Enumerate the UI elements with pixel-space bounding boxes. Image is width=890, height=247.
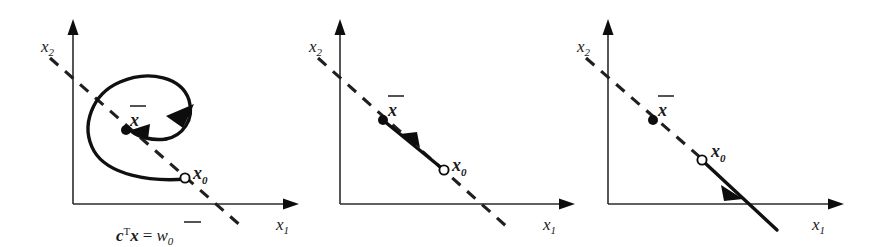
- x0-label: x0: [451, 155, 467, 178]
- straight-inward-panel: x2 x1 x x0: [308, 19, 575, 236]
- inward-segment-arrowhead: [400, 132, 420, 148]
- xbar-point: [378, 115, 388, 125]
- xbar-label: x: [387, 96, 404, 120]
- spiral-convergence-panel: x2 x1 x x0 cTx=w0: [40, 19, 299, 247]
- outward-ray: [705, 163, 777, 230]
- y-axis-label: x2: [40, 37, 55, 58]
- hyperplane-dashed-line: [586, 58, 701, 158]
- x0-point: [697, 155, 706, 164]
- x0-label: x0: [710, 141, 726, 164]
- x-axis-arrowhead: [283, 199, 299, 210]
- xbar-label-text: x: [129, 110, 139, 130]
- straight-outward-panel: x2 x1 x x0: [576, 19, 844, 236]
- x0-label: x0: [192, 163, 208, 186]
- y-axis-arrowhead: [68, 19, 79, 35]
- figure-canvas: x2 x1 x x0 cTx=w0 x2 x1: [0, 0, 890, 247]
- xbar-label-text: x: [387, 100, 397, 120]
- x0-point: [180, 173, 189, 182]
- xbar-label: x: [657, 96, 674, 120]
- hyperplane-equation-label: cTx=w0: [116, 225, 174, 247]
- y-axis-label: x2: [308, 37, 323, 58]
- xbar-point: [648, 115, 658, 125]
- x-axis-label: x1: [275, 215, 289, 236]
- inward-segment: [384, 121, 444, 170]
- xbar-label-text: x: [657, 100, 667, 120]
- x-axis-label: x1: [811, 215, 825, 236]
- y-axis-label: x2: [576, 37, 591, 58]
- hyperplane-dashed-line: [50, 58, 241, 226]
- x-axis-label: x1: [542, 215, 556, 236]
- x-axis-arrowhead: [559, 199, 575, 210]
- y-axis-arrowhead: [603, 19, 614, 35]
- y-axis-arrowhead: [335, 19, 346, 35]
- x-axis-arrowhead: [828, 199, 844, 210]
- x0-point: [439, 165, 448, 174]
